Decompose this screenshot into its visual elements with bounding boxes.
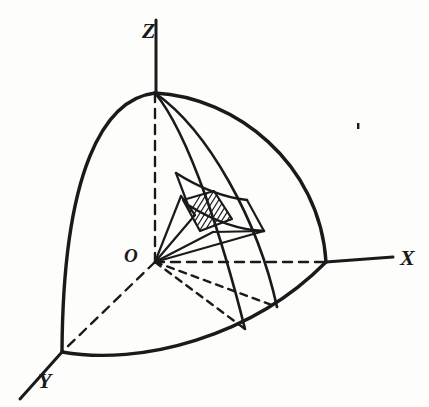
- ink-speck: [357, 123, 359, 129]
- x-axis-label: X: [399, 245, 416, 270]
- origin-label: O: [124, 245, 138, 266]
- volume-element-rib-4: [213, 231, 264, 232]
- figure-container: Z X Y O: [0, 0, 429, 407]
- figure-background: [0, 0, 429, 407]
- spherical-coordinates-diagram: Z X Y O: [0, 0, 429, 407]
- z-axis-label: Z: [141, 18, 155, 43]
